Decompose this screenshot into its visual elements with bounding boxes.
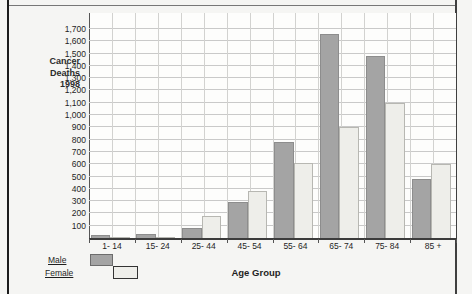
y-axis-tick-label: 600 xyxy=(36,159,86,169)
y-axis-tick-label: 700 xyxy=(36,147,86,157)
legend-male-label: Male xyxy=(48,255,66,265)
x-axis-category-label: 45- 54 xyxy=(227,241,273,251)
bar-female-65-74 xyxy=(339,127,359,238)
x-axis-title: Age Group xyxy=(196,267,316,278)
y-axis-tick-label: 300 xyxy=(36,196,86,206)
gridline-vertical xyxy=(112,13,113,238)
gridline-vertical xyxy=(158,13,159,238)
y-axis-tick-label: 400 xyxy=(36,184,86,194)
y-axis-tick-label: 800 xyxy=(36,135,86,145)
y-axis-tick-label: 1,400 xyxy=(36,61,86,71)
bar-female-45-54 xyxy=(248,191,268,238)
x-axis-category-label: 15- 24 xyxy=(135,241,181,251)
gridline-vertical xyxy=(204,13,205,238)
bar-male-85+ xyxy=(412,179,432,238)
bar-male-25-44 xyxy=(182,228,202,238)
y-axis-tick-label: 1,500 xyxy=(36,49,86,59)
x-axis-category-label: 65- 74 xyxy=(318,241,364,251)
page-top-border xyxy=(9,5,455,6)
plot-area xyxy=(89,13,456,238)
y-axis-tick-label: 500 xyxy=(36,172,86,182)
gridline-vertical xyxy=(181,13,182,238)
bar-female-75-84 xyxy=(385,103,405,238)
bar-male-65-74 xyxy=(320,34,340,238)
legend-female-swatch xyxy=(113,266,138,279)
y-axis-tick-label: 900 xyxy=(36,122,86,132)
y-axis-tick-label: 1,300 xyxy=(36,73,86,83)
legend-female-label: Female xyxy=(45,268,73,278)
y-axis-tick-label: 1,200 xyxy=(36,85,86,95)
bar-female-85+ xyxy=(431,164,451,238)
x-axis-category-label: 85 + xyxy=(410,241,456,251)
y-axis-tick-label: 200 xyxy=(36,208,86,218)
x-axis-category-label: 75- 84 xyxy=(364,241,410,251)
y-axis-tick-label: 1,700 xyxy=(36,24,86,34)
bar-male-55-64 xyxy=(274,142,294,238)
bar-female-55-64 xyxy=(294,163,314,238)
gridline-vertical xyxy=(135,13,136,238)
x-axis-category-label: 1- 14 xyxy=(89,241,135,251)
legend-male-swatch xyxy=(90,254,113,266)
bar-female-25-44 xyxy=(202,216,222,238)
x-axis-category-label: 25- 44 xyxy=(181,241,227,251)
y-axis-tick-label: 1,600 xyxy=(36,36,86,46)
y-axis-tick-label: 100 xyxy=(36,221,86,231)
bar-male-75-84 xyxy=(366,56,386,238)
page-edge-line-left xyxy=(7,0,9,294)
bar-male-45-54 xyxy=(228,202,248,238)
y-axis-tick-label: 1,000 xyxy=(36,110,86,120)
y-axis-tick-label: 1,100 xyxy=(36,98,86,108)
x-axis-tick xyxy=(456,239,457,243)
x-axis-category-label: 55- 64 xyxy=(273,241,319,251)
